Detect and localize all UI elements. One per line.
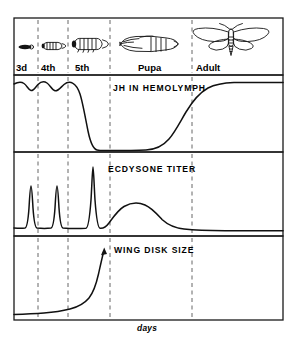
stage-label-5th: 5th [75, 62, 89, 73]
panel-label-wingdisk: WING DISK SIZE [114, 245, 194, 255]
jh-curve-group: JH IN HEMOLYMPH [14, 82, 283, 151]
wingdisk-curve-group: WING DISK SIZE [14, 245, 194, 315]
panel-label-jh: JH IN HEMOLYMPH [113, 83, 206, 93]
stage-label-pupa: Pupa [138, 62, 162, 73]
stage-label-adult: Adult [196, 62, 221, 73]
stage-label-4th: 4th [41, 62, 55, 73]
pupa-art [120, 36, 178, 52]
larva-large-art [72, 38, 109, 52]
figure-container: 3d 4th 5th Pupa Adult JH IN HEMOLYMPH EC… [0, 0, 298, 350]
adult-moth-art [193, 24, 269, 56]
metamorphosis-diagram: 3d 4th 5th Pupa Adult JH IN HEMOLYMPH EC… [0, 0, 298, 350]
ecdysone-curve-group: ECDYSONE TITER [14, 164, 283, 231]
wingdisk-curve [14, 253, 104, 315]
x-axis-label: days [137, 323, 157, 333]
panel-label-ecdysone: ECDYSONE TITER [108, 164, 196, 174]
ecdysone-curve [14, 167, 283, 231]
larva-medium-art [42, 42, 66, 49]
stage-label-3d: 3d [16, 62, 27, 73]
wingdisk-arrowhead [101, 248, 107, 256]
larva-small-art [19, 45, 34, 49]
